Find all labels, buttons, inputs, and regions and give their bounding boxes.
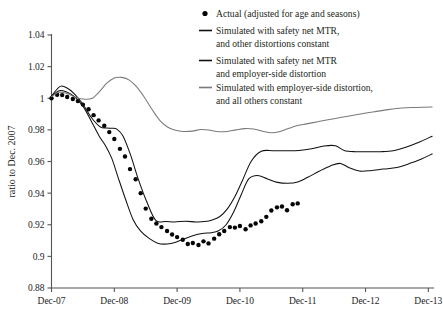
data-point: [253, 221, 257, 225]
data-point: [233, 225, 237, 229]
data-point: [228, 225, 232, 229]
x-tick-label: Dec-09: [163, 296, 191, 306]
data-point: [71, 97, 75, 101]
y-tick-label: 0.94: [28, 189, 45, 199]
data-point: [196, 243, 200, 247]
data-point: [96, 118, 100, 122]
data-point: [165, 229, 169, 233]
x-tick-label: Dec-11: [289, 296, 317, 306]
data-point: [222, 229, 226, 233]
scatter-series: [49, 93, 300, 248]
legend-dot-marker: [202, 11, 207, 16]
data-point: [280, 204, 284, 208]
legend-entry: Actual (adjusted for age and seasons): [202, 8, 359, 20]
data-point: [191, 241, 195, 245]
line-series: [52, 90, 433, 244]
y-tick-label: 0.9: [33, 252, 45, 262]
data-point: [65, 95, 69, 99]
data-point: [159, 225, 163, 229]
data-point: [217, 232, 221, 236]
data-point: [269, 208, 273, 212]
data-point: [170, 232, 174, 236]
y-tick-label: 0.96: [28, 157, 45, 167]
data-point: [296, 201, 300, 205]
data-point: [248, 223, 252, 227]
legend-label: Actual (adjusted for age and seasons): [216, 8, 360, 20]
y-tick-label: 1.02: [28, 62, 45, 72]
y-axis-title: ratio to Dec. 2007: [6, 125, 17, 197]
data-point: [91, 113, 95, 117]
data-point: [144, 206, 148, 210]
data-point: [118, 147, 122, 151]
data-point: [123, 154, 127, 158]
line-chart: 0.880.90.920.940.960.9811.021.04Dec-07De…: [0, 0, 443, 325]
legend-label-line2: and other distortions constant: [216, 38, 330, 49]
legend-entry: Simulated with safety net MTRand employe…: [199, 55, 338, 79]
y-tick-label: 1: [40, 94, 45, 104]
data-point: [290, 202, 294, 206]
legend-label: Simulated with employer-side distortion,: [216, 82, 373, 93]
data-point: [275, 205, 279, 209]
legend-label-line2: and employer-side distortion: [216, 68, 326, 79]
y-tick-label: 0.92: [28, 220, 45, 230]
data-point: [285, 208, 289, 212]
x-tick-label: Dec-10: [226, 296, 254, 306]
data-point: [201, 239, 205, 243]
data-point: [60, 93, 64, 97]
x-tick-label: Dec-13: [414, 296, 442, 306]
chart-legend: Actual (adjusted for age and seasons)Sim…: [199, 8, 373, 106]
legend-entry: Simulated with safety net MTR,and other …: [199, 25, 339, 49]
data-point: [186, 242, 190, 246]
data-point: [133, 177, 137, 181]
y-tick-label: 0.88: [28, 283, 45, 293]
x-tick-label: Dec-08: [100, 296, 128, 306]
data-point: [259, 219, 263, 223]
x-tick-label: Dec-07: [38, 296, 66, 306]
legend-entry: Simulated with employer-side distortion,…: [199, 82, 373, 106]
data-point: [206, 241, 210, 245]
data-point: [112, 137, 116, 141]
data-point: [264, 215, 268, 219]
legend-label: Simulated with safety net MTR: [216, 55, 338, 66]
data-point: [128, 167, 132, 171]
data-point: [102, 124, 106, 128]
data-point: [243, 227, 247, 231]
legend-label-line2: and all others constant: [216, 95, 302, 106]
data-point: [149, 217, 153, 221]
data-point: [238, 224, 242, 228]
data-point: [107, 130, 111, 134]
line-series: [52, 86, 433, 222]
legend-label: Simulated with safety net MTR,: [216, 25, 339, 36]
x-tick-label: Dec-12: [352, 296, 380, 306]
y-tick-label: 0.98: [28, 125, 45, 135]
figure-container: 0.880.90.920.940.960.9811.021.04Dec-07De…: [0, 0, 443, 325]
data-point: [212, 236, 216, 240]
data-point: [175, 235, 179, 239]
y-tick-label: 1.04: [28, 30, 45, 40]
y-axis-title-text: ratio to Dec. 2007: [6, 125, 17, 197]
